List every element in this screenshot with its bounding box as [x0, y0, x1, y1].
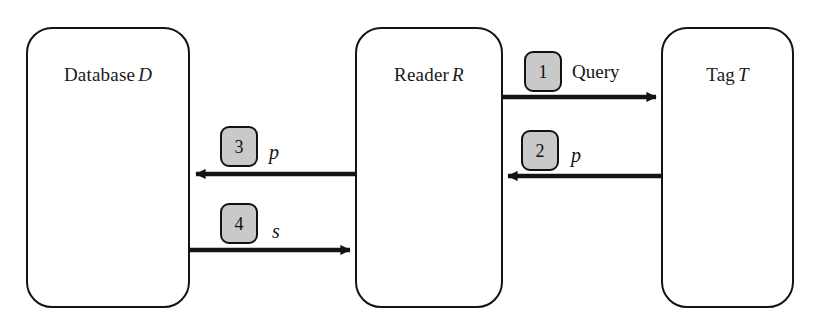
entity-name-reader: Reader: [394, 64, 449, 85]
entity-name-database: Database: [64, 64, 135, 85]
step-badge-2-number: 2: [536, 142, 545, 160]
entity-name-tag: Tag: [706, 64, 735, 85]
rfid-protocol-diagram: DatabaseD ReaderR TagT 1 Query 2 p 3 p 4…: [0, 0, 818, 332]
entity-symbol-reader: R: [449, 64, 464, 85]
step-badge-4[interactable]: 4: [220, 203, 258, 244]
step-badge-4-number: 4: [235, 215, 244, 233]
entity-symbol-database: D: [135, 64, 152, 85]
entity-box-tag[interactable]: TagT: [661, 27, 794, 308]
step-badge-1-number: 1: [539, 63, 548, 81]
entity-title-tag: TagT: [663, 65, 792, 84]
message-label-4-s: s: [272, 221, 280, 241]
entity-box-reader[interactable]: ReaderR: [355, 27, 503, 308]
step-badge-3-number: 3: [235, 138, 244, 156]
message-label-1-query: Query: [572, 62, 619, 81]
message-label-2-p: p: [571, 145, 581, 165]
step-badge-1[interactable]: 1: [524, 51, 562, 92]
entity-title-reader: ReaderR: [357, 65, 501, 84]
step-badge-2[interactable]: 2: [521, 130, 559, 171]
entity-box-database[interactable]: DatabaseD: [26, 27, 190, 308]
step-badge-3[interactable]: 3: [220, 126, 258, 167]
entity-symbol-tag: T: [735, 64, 749, 85]
message-label-3-p: p: [269, 142, 279, 162]
entity-title-database: DatabaseD: [28, 65, 188, 84]
